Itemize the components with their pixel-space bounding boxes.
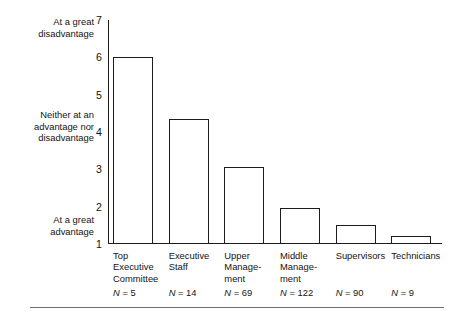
category-label: UpperManage-mentN = 69 [224,250,286,284]
y-tick-label-6: 6 [96,52,102,63]
scale-anchor-mid-line2: advantage nor [34,121,94,132]
plot-area: 1234567 [108,20,442,244]
category-label: MiddleManage-mentN = 122 [280,250,342,284]
category-label-line: Manage- [224,261,261,272]
category-label-line: Executive [169,250,210,261]
bar [113,57,153,244]
y-tick-label-1: 1 [96,239,102,250]
category-label-line: Executive [113,261,154,272]
y-axis-line [108,20,109,244]
category-label-line: ment [280,273,301,284]
category-label-line: Upper [224,250,250,261]
sample-size-label: N = 14 [169,287,197,298]
x-axis-category-labels: TopExecutiveCommitteeN = 5ExecutiveStaff… [108,250,448,302]
scale-anchor-mid-line1: Neither at an [40,109,94,120]
category-label-line: Middle [280,250,308,261]
scale-anchor-high-line1: At a great [53,16,94,27]
sample-size-label: N = 5 [113,287,136,298]
sample-size-label: N = 122 [280,287,313,298]
category-label-line: Technicians [391,250,440,261]
scale-anchor-high-line2: disadvantage [38,28,94,39]
bar [391,236,431,244]
sample-size-label: N = 90 [336,287,364,298]
category-label-line: Staff [169,261,188,272]
bar [169,119,209,244]
y-tick-label-3: 3 [96,164,102,175]
bar-chart-figure: At a great disadvantage Neither at an ad… [0,0,460,319]
scale-anchor-low-line1: At a great [53,214,94,225]
category-label-line: ment [224,273,245,284]
sample-size-label: N = 9 [391,287,414,298]
scale-anchor-mid-line3: disadvantage [38,132,94,143]
scale-anchor-mid: Neither at an advantage nor disadvantage [10,109,94,144]
bar [336,225,376,244]
y-tick-label-5: 5 [96,89,102,100]
category-label-line: Manage- [280,261,317,272]
category-label: SupervisorsN = 90 [336,250,398,261]
y-tick-label-2: 2 [96,201,102,212]
scale-anchor-high: At a great disadvantage [10,16,94,39]
category-label: TechniciansN = 9 [391,250,453,261]
category-label: ExecutiveStaffN = 14 [169,250,231,273]
y-tick-label-7: 7 [96,15,102,26]
scale-anchor-low-line2: advantage [50,226,94,237]
category-label: TopExecutiveCommitteeN = 5 [113,250,175,284]
category-label-line: Top [113,250,128,261]
scale-anchor-low: At a great advantage [10,214,94,237]
y-tick-label-4: 4 [96,127,102,138]
bar [224,167,264,244]
category-label-line: Committee [113,273,158,284]
sample-size-label: N = 69 [224,287,252,298]
bottom-divider-rule [30,307,444,308]
bar [280,208,320,244]
category-label-line: Supervisors [336,250,386,261]
